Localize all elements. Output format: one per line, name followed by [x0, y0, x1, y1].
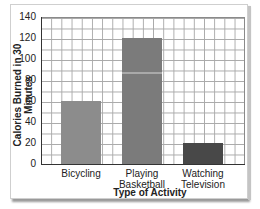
- x-tick-line: Watching: [168, 168, 238, 179]
- x-tick-bicycling: Bicycling: [46, 168, 116, 179]
- x-axis-title: Type of Activity: [80, 187, 220, 198]
- y-tick-label: 0: [14, 159, 36, 169]
- y-axis-title: Calories Burned in 30 Minutes: [12, 30, 34, 160]
- bar-playing-basketball: [122, 38, 162, 164]
- bar-bicycling: [61, 101, 101, 164]
- bar-highlight-stripe: [122, 72, 162, 74]
- y-axis-line: [41, 17, 42, 165]
- x-axis-line: [41, 164, 245, 165]
- x-tick-line: Bicycling: [46, 168, 116, 179]
- bar-watching-television: [183, 143, 223, 164]
- y-tick-label: 140: [14, 12, 36, 22]
- x-tick-line: Playing: [107, 168, 177, 179]
- frame-shadow: [248, 6, 251, 200]
